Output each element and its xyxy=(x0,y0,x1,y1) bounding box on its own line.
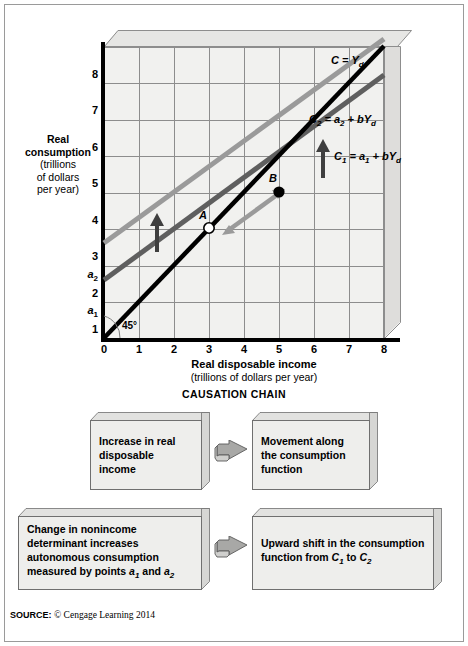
source-credit: SOURCE: © Cengage Learning 2014 xyxy=(10,610,155,620)
x-tick-7: 7 xyxy=(338,343,360,355)
box-change-nonincome-text: Change in nonincome determinant increase… xyxy=(18,516,202,590)
point-a-label: A xyxy=(199,209,207,221)
x-tick-3: 3 xyxy=(198,343,220,355)
box3-a2: a2 xyxy=(164,565,174,577)
causation-chain-title: CAUSATION CHAIN xyxy=(0,388,468,400)
x-tick-5: 5 xyxy=(268,343,290,355)
x-tick-4: 4 xyxy=(233,343,255,355)
x-axis-title: Real disposable income (trillions of dol… xyxy=(134,358,374,384)
curve-45-degree xyxy=(104,46,384,338)
curve-label-c2: C2 = a2 + bYd xyxy=(309,113,376,128)
y-tick-a1: a1 xyxy=(76,304,98,319)
box4-to: to xyxy=(344,551,360,563)
x-tick-0: 0 xyxy=(93,343,115,355)
x-tick-8: 8 xyxy=(373,343,395,355)
x-tick-2: 2 xyxy=(163,343,185,355)
curve-c2 xyxy=(104,39,384,243)
box-side-face xyxy=(201,508,210,590)
box-movement-along: Movement along the consumption function xyxy=(252,412,378,490)
point-b-marker xyxy=(273,186,284,197)
shift-arrow-right xyxy=(316,139,330,178)
y-axis-title-line4: of dollars xyxy=(18,171,98,184)
chain-arrow-1 xyxy=(213,440,249,468)
y-axis-title-line5: per year) xyxy=(18,183,98,196)
y-tick-4: 4 xyxy=(76,214,98,226)
y-tick-8: 8 xyxy=(76,68,98,80)
box3-a1: a1 xyxy=(129,565,139,577)
figure-container: 8 7 6 5 4 3 2 1 a2 a1 0 1 2 3 4 5 6 7 8 … xyxy=(0,0,468,646)
causation-chain: CAUSATION CHAIN Increase in real disposa… xyxy=(0,388,468,608)
box-movement-along-text: Movement along the consumption function xyxy=(252,420,370,490)
y-axis-title: Real consumption (trillions of dollars p… xyxy=(18,133,98,196)
box-upward-shift-text: Upward shift in the consumption function… xyxy=(252,516,434,590)
chain-arrow-2 xyxy=(213,536,249,564)
y-axis-title-line1: Real xyxy=(18,133,98,146)
source-label: SOURCE: xyxy=(10,610,52,620)
curve-c1 xyxy=(104,75,384,280)
box4-c2: C2 xyxy=(359,551,371,563)
x-axis-title-main: Real disposable income xyxy=(134,358,374,371)
curve-label-45-degree: C = Yd xyxy=(331,54,364,69)
y-axis-title-line3: (trillions xyxy=(18,158,98,171)
x-tick-1: 1 xyxy=(128,343,150,355)
y-tick-3: 3 xyxy=(76,250,98,262)
x-tick-6: 6 xyxy=(303,343,325,355)
x-axis-title-sub: (trillions of dollars per year) xyxy=(134,371,374,384)
chart-overlay xyxy=(0,0,468,392)
source-value: © Cengage Learning 2014 xyxy=(54,610,155,620)
y-axis-title-line2: consumption xyxy=(18,146,98,159)
box-side-face xyxy=(433,508,442,590)
y-tick-1: 1 xyxy=(76,323,98,335)
box-increase-income-text: Increase in real disposable income xyxy=(90,420,202,490)
box-side-face xyxy=(369,412,378,490)
y-tick-7: 7 xyxy=(76,104,98,116)
point-b-label: B xyxy=(269,172,277,184)
y-tick-a2: a2 xyxy=(76,268,98,283)
y-tick-2: 2 xyxy=(76,287,98,299)
box4-c1: C1 xyxy=(332,551,344,563)
box-change-nonincome: Change in nonincome determinant increase… xyxy=(18,508,210,590)
consumption-function-chart: 8 7 6 5 4 3 2 1 a2 a1 0 1 2 3 4 5 6 7 8 … xyxy=(0,0,468,392)
point-a-marker xyxy=(204,223,214,233)
box-increase-income: Increase in real disposable income xyxy=(90,412,210,490)
curve-label-c1: C1 = a1 + bYd xyxy=(334,150,401,165)
angle-45-label: 45° xyxy=(122,320,137,331)
box-upward-shift: Upward shift in the consumption function… xyxy=(252,508,442,590)
box-side-face xyxy=(201,412,210,490)
box3-and: and xyxy=(139,565,164,577)
